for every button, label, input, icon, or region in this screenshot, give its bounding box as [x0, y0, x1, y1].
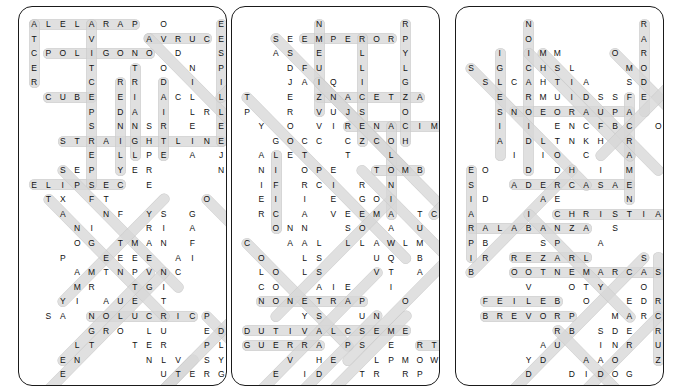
grid-letter: E — [269, 338, 283, 352]
grid-letter: D — [171, 46, 185, 60]
grid-letter: L — [370, 353, 384, 367]
grid-letter: F — [298, 61, 312, 75]
grid-letter: A — [536, 221, 550, 235]
grid-letter: I — [185, 134, 199, 148]
grid-letter: I — [384, 192, 398, 206]
grid-letter: T — [128, 338, 142, 352]
grid-letter: L — [355, 46, 369, 60]
grid-letter: L — [214, 338, 227, 352]
grid-letter: E — [536, 294, 550, 308]
grid-letter: F — [185, 236, 199, 250]
grid-letter: M — [550, 46, 564, 60]
grid-letter: D — [536, 353, 550, 367]
grid-letter: T — [27, 32, 41, 46]
grid-letter: T — [536, 265, 550, 279]
grid-letter: O — [398, 294, 412, 308]
grid-letter: G — [355, 192, 369, 206]
letter-layer-3: NROASIIMMORASGCHSLMOGSLCAHTIASDRERMUIDSS… — [456, 7, 663, 385]
grid-letter: A — [622, 309, 636, 323]
grid-letter: L — [493, 221, 507, 235]
grid-letter: L — [41, 178, 55, 192]
grid-letter: T — [171, 367, 185, 381]
grid-letter: A — [269, 46, 283, 60]
grid-letter: E — [200, 324, 214, 338]
grid-letter: O — [651, 119, 664, 133]
grid-letter: B — [413, 251, 427, 265]
grid-letter: R — [27, 75, 41, 89]
grid-letter: H — [594, 134, 608, 148]
grid-letter: E — [341, 280, 355, 294]
grid-letter: O — [157, 17, 171, 31]
grid-letter: C — [550, 207, 564, 221]
grid-letter: E — [269, 367, 283, 381]
grid-letter: R — [200, 367, 214, 381]
grid-letter: I — [413, 119, 427, 133]
grid-letter: C — [298, 134, 312, 148]
grid-letter: T — [550, 75, 564, 89]
grid-letter: S — [157, 207, 171, 221]
grid-letter: S — [283, 46, 297, 60]
grid-letter: B — [464, 265, 478, 279]
grid-letter: P — [214, 61, 227, 75]
grid-letter: E — [298, 32, 312, 46]
puzzle-panel-3[interactable]: NROASIIMMORASGCHSLMOGSLCAHTIASDRERMUIDSS… — [455, 6, 664, 386]
grid-letter: U — [157, 324, 171, 338]
grid-letter: N — [298, 221, 312, 235]
grid-letter: R — [370, 367, 384, 381]
grid-letter: A — [312, 338, 326, 352]
grid-letter: O — [269, 221, 283, 235]
grid-letter: I — [185, 251, 199, 265]
grid-letter: Z — [536, 251, 550, 265]
grid-letter: S — [536, 236, 550, 250]
grid-letter: E — [128, 294, 142, 308]
grid-letter: L — [298, 265, 312, 279]
grid-letter: L — [157, 353, 171, 367]
grid-letter: N — [200, 134, 214, 148]
grid-letter: A — [56, 207, 70, 221]
grid-letter: G — [398, 75, 412, 89]
grid-letter: D — [312, 367, 326, 381]
grid-letter: A — [341, 90, 355, 104]
grid-letter: A — [651, 207, 664, 221]
puzzle-panel-1[interactable]: ALELARAPOETVAVRUCECPOLIGONODSETTONPRCRRD… — [18, 6, 227, 386]
grid-letter: O — [200, 192, 214, 206]
grid-letter: O — [608, 46, 622, 60]
grid-letter: G — [622, 367, 636, 381]
grid-letter: C — [565, 178, 579, 192]
grid-letter: Z — [355, 134, 369, 148]
grid-letter: R — [326, 294, 340, 308]
grid-letter: A — [536, 192, 550, 206]
grid-letter: R — [413, 338, 427, 352]
grid-letter: E — [99, 251, 113, 265]
grid-letter: O — [413, 353, 427, 367]
grid-letter: I — [298, 367, 312, 381]
grid-letter: E — [27, 61, 41, 75]
grid-letter: O — [522, 265, 536, 279]
grid-letter: O — [522, 32, 536, 46]
grid-letter: T — [427, 338, 440, 352]
grid-letter: C — [651, 309, 664, 323]
grid-letter: U — [550, 90, 564, 104]
grid-letter: C — [579, 119, 593, 133]
grid-letter: V — [298, 324, 312, 338]
grid-letter: R — [283, 105, 297, 119]
grid-letter: E — [298, 294, 312, 308]
grid-letter: R — [157, 119, 171, 133]
grid-letter: R — [254, 382, 268, 386]
grid-letter: E — [214, 32, 227, 46]
grid-letter: T — [355, 367, 369, 381]
grid-letter: N — [550, 221, 564, 235]
grid-letter: A — [413, 90, 427, 104]
grid-letter: I — [493, 119, 507, 133]
grid-letter: A — [157, 90, 171, 104]
grid-letter: V — [522, 280, 536, 294]
grid-letter: Y — [56, 294, 70, 308]
puzzle-panel-2[interactable]: NRSEEMPERORPASELYDFULLJAIQIGTEZNACETZAPR… — [231, 6, 440, 386]
grid-letter: N — [70, 353, 84, 367]
grid-letter: A — [478, 221, 492, 235]
grid-letter: I — [298, 192, 312, 206]
grid-letter: E — [214, 134, 227, 148]
grid-letter: E — [142, 338, 156, 352]
grid-letter: A — [298, 207, 312, 221]
grid-letter: C — [522, 61, 536, 75]
